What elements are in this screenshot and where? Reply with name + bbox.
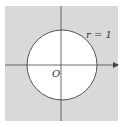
origin-label: O [52, 68, 60, 79]
radius-label: r = 1 [86, 29, 112, 40]
unit-circle-diagram: r = 1 O [0, 0, 124, 127]
